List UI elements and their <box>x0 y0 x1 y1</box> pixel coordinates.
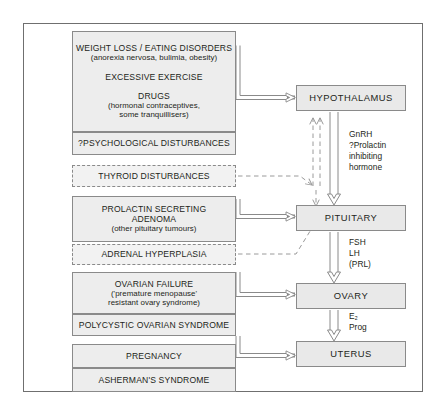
axis-box-label: OVARY <box>334 290 368 301</box>
cause-line: resistant ovary syndrome) <box>108 298 200 307</box>
hormone-line: FSH <box>349 237 371 248</box>
cause-line: WEIGHT LOSS / EATING DISORDERS <box>76 43 232 53</box>
axis-box-label: PITUITARY <box>325 212 378 223</box>
hormone-line: GnRH <box>349 129 386 140</box>
hormone-line: LH <box>349 248 371 259</box>
cause-line: POLYCYSTIC OVARIAN SYNDROME <box>79 320 229 330</box>
axis-box-label: UTERUS <box>330 348 372 359</box>
hormone-line: E₂ <box>349 311 367 322</box>
cause-box-pregnancy: PREGNANCY <box>72 344 236 368</box>
cause-line: OVARIAN FAILURE <box>115 279 194 289</box>
hormone-line: (PRL) <box>349 259 371 270</box>
cause-box-psychological: ?PSYCHOLOGICAL DISTURBANCES <box>72 132 236 155</box>
cause-box-ashermans: ASHERMAN'S SYNDROME <box>72 368 236 392</box>
cause-line: EXCESSIVE EXERCISE <box>105 72 202 82</box>
cause-box-pcos: POLYCYSTIC OVARIAN SYNDROME <box>72 314 236 336</box>
axis-box-label: HYPOTHALAMUS <box>309 92 393 103</box>
hormone-label-e2-prog: E₂ Prog <box>349 311 367 333</box>
cause-line: ADENOMA <box>132 214 177 224</box>
axis-box-uterus: UTERUS <box>296 341 406 367</box>
hormone-label-fsh-lh-prl: FSH LH (PRL) <box>349 237 371 270</box>
cause-box-weight-loss: WEIGHT LOSS / EATING DISORDERS (anorexia… <box>72 31 236 132</box>
cause-line: ('premature menopause' <box>111 289 197 298</box>
cause-box-prolactinoma: PROLACTIN SECRETING ADENOMA (other pitui… <box>72 196 236 242</box>
cause-box-adrenal: ADRENAL HYPERPLASIA <box>72 244 236 265</box>
axis-box-pituitary: PITUITARY <box>296 205 406 231</box>
axis-box-ovary: OVARY <box>296 283 406 309</box>
cause-line: some tranquillisers) <box>119 110 188 119</box>
axis-box-hypothalamus: HYPOTHALAMUS <box>296 85 406 111</box>
cause-line: (anorexia nervosa, bulimia, obesity) <box>91 53 217 62</box>
cause-line: ADRENAL HYPERPLASIA <box>101 249 206 259</box>
diagram-canvas: WEIGHT LOSS / EATING DISORDERS (anorexia… <box>0 0 444 410</box>
cause-line: DRUGS <box>138 91 170 101</box>
cause-line: ASHERMAN'S SYNDROME <box>99 375 210 385</box>
hormone-line: Prog <box>349 322 367 333</box>
cause-line: (other pituitary tumours) <box>111 224 196 233</box>
hormone-line: hormone <box>349 162 386 173</box>
cause-box-thyroid: THYROID DISTURBANCES <box>72 165 236 187</box>
cause-line: ?PSYCHOLOGICAL DISTURBANCES <box>78 138 230 148</box>
cause-box-ovarian-failure: OVARIAN FAILURE ('premature menopause' r… <box>72 272 236 314</box>
cause-line: PREGNANCY <box>126 351 182 361</box>
hormone-line: ?Prolactin <box>349 140 386 151</box>
hormone-label-gnrh: GnRH ?Prolactin inhibiting hormone <box>349 129 386 173</box>
cause-line: (hormonal contraceptives, <box>108 101 200 110</box>
cause-line: THYROID DISTURBANCES <box>98 171 209 181</box>
cause-line: PROLACTIN SECRETING <box>102 204 207 214</box>
hormone-line: inhibiting <box>349 151 386 162</box>
